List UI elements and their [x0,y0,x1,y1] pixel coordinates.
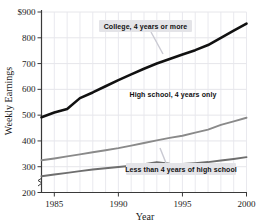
x-tick-label: 1990 [109,199,128,209]
x-tick-label: 1995 [173,199,192,209]
x-tick-label: 1985 [45,199,64,209]
series-annotation-lessthan-label: Less than 4 years of high school [126,163,236,175]
y-tick-label: 800 [22,33,36,43]
x-axis-ticks: 1985199019952000 [45,193,256,209]
y-axis-ticks: $900800700600500400300200 [18,7,42,198]
series-annotation-college-label: College, 4 years or more [99,20,192,32]
series-annotation-highschool-label: High school, 4 years only [127,89,219,100]
y-tick-label: 300 [22,162,36,172]
y-tick-label: 400 [22,136,36,146]
y-tick-label: 200 [22,188,36,198]
y-tick-label: $900 [18,7,37,17]
y-tick-label: 600 [22,84,36,94]
x-tick-label: 2000 [238,199,257,209]
y-axis-title: Weekly Earnings [3,67,14,135]
y-tick-label: 700 [22,59,36,69]
y-tick-label: 500 [22,110,36,120]
chart-canvas: $900800700600500400300200 19851990199520… [0,0,265,224]
annotation-leader-line [160,148,166,163]
earnings-by-education-chart: $900800700600500400300200 19851990199520… [0,0,265,224]
x-axis-title: Year [136,211,155,222]
